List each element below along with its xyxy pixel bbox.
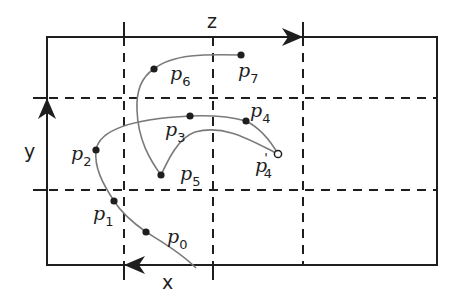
label-p2: p2 bbox=[71, 142, 91, 169]
point-p1 bbox=[110, 197, 117, 204]
grid-diagram: z y x p0 p1 p2 p3 p4 p'4 p5 p6 p7 bbox=[0, 0, 457, 299]
label-p1: p1 bbox=[93, 202, 113, 229]
point-p3 bbox=[186, 112, 193, 119]
label-p4-prime: p'4 bbox=[255, 150, 272, 181]
y-axis-label: y bbox=[24, 140, 35, 162]
point-p4-prime bbox=[274, 150, 281, 157]
point-p0 bbox=[142, 228, 149, 235]
x-axis-label: x bbox=[162, 271, 173, 293]
label-p6: p6 bbox=[170, 62, 190, 89]
point-p6 bbox=[150, 65, 157, 72]
label-p5: p5 bbox=[180, 162, 200, 189]
label-p7: p7 bbox=[238, 59, 258, 86]
label-p4: p4 bbox=[250, 99, 270, 126]
point-p2 bbox=[92, 146, 99, 153]
point-p4 bbox=[242, 117, 249, 124]
z-axis-label: z bbox=[207, 10, 217, 32]
point-p5 bbox=[157, 171, 164, 178]
label-p3: p3 bbox=[165, 118, 185, 145]
point-p7 bbox=[237, 51, 244, 58]
